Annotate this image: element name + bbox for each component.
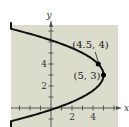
chart: 2424xy (4.5, 4)(5, 3): [0, 0, 129, 127]
x-axis-arrow: [116, 106, 122, 110]
point-marker: [96, 62, 101, 67]
point-label: (5, 3): [74, 70, 101, 81]
y-tick-label: 4: [41, 59, 47, 69]
x-tick-label: 4: [90, 112, 96, 122]
y-axis-arrow: [49, 20, 53, 27]
point-marker: [101, 73, 106, 78]
point-label: (4.5, 4): [72, 39, 109, 50]
x-axis-label: x: [124, 103, 129, 113]
y-tick-label: 2: [41, 81, 47, 91]
y-axis-label: y: [45, 10, 52, 20]
x-tick-label: 2: [69, 112, 75, 122]
